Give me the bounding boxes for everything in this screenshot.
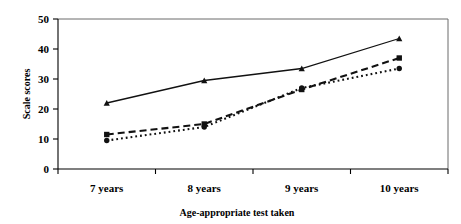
x-category-label-9-years: 9 years bbox=[285, 182, 319, 194]
data-point-2-4 bbox=[397, 55, 402, 60]
x-category-label-7-years: 7 years bbox=[90, 182, 124, 194]
x-category-label-10-years: 10 years bbox=[380, 182, 420, 194]
x-axis-title: Age-appropriate test taken bbox=[180, 207, 295, 218]
series-line-2 bbox=[107, 58, 400, 135]
line-chart: 0 10 20 30 40 50 7 years 8 years 9 years… bbox=[0, 0, 461, 224]
data-point-3-3 bbox=[299, 85, 304, 90]
y-tick-label-0: 0 bbox=[44, 163, 50, 175]
y-tick-label-10: 10 bbox=[38, 133, 50, 145]
chart-figure: 0 10 20 30 40 50 7 years 8 years 9 years… bbox=[0, 0, 461, 224]
data-point-3-4 bbox=[397, 66, 402, 71]
data-point-1-4 bbox=[396, 35, 402, 41]
data-point-2-1 bbox=[104, 132, 109, 137]
y-tick-label-20: 20 bbox=[38, 103, 50, 115]
y-axis-title: Scale scores bbox=[21, 69, 32, 120]
y-tick-label-50: 50 bbox=[38, 13, 50, 25]
y-tick-label-30: 30 bbox=[38, 73, 50, 85]
series-layer bbox=[104, 35, 403, 143]
data-point-3-1 bbox=[104, 138, 109, 143]
data-point-3-2 bbox=[202, 124, 207, 129]
x-category-label-8-years: 8 years bbox=[188, 182, 222, 194]
series-line-1 bbox=[107, 39, 400, 104]
y-tick-label-40: 40 bbox=[38, 43, 50, 55]
